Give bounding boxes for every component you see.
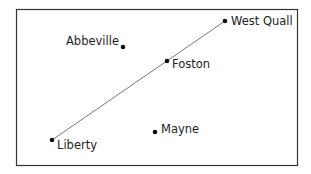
town-label: Foston — [172, 57, 210, 71]
town-dot-icon — [223, 19, 228, 24]
town-abbeville: Abbeville — [66, 34, 125, 49]
town-map-diagram: West Quall Abbeville Foston Mayne Libert… — [0, 0, 311, 174]
town-label: West Quall — [231, 14, 293, 28]
town-label: Liberty — [57, 138, 97, 152]
town-label: Abbeville — [66, 34, 119, 48]
town-liberty: Liberty — [50, 138, 98, 152]
town-dot-icon — [165, 59, 170, 64]
town-dot-icon — [121, 45, 126, 50]
town-label: Mayne — [161, 122, 199, 136]
town-dot-icon — [153, 130, 158, 135]
town-west-quall: West Quall — [223, 14, 293, 28]
town-dot-icon — [50, 138, 55, 143]
town-foston: Foston — [165, 57, 210, 71]
